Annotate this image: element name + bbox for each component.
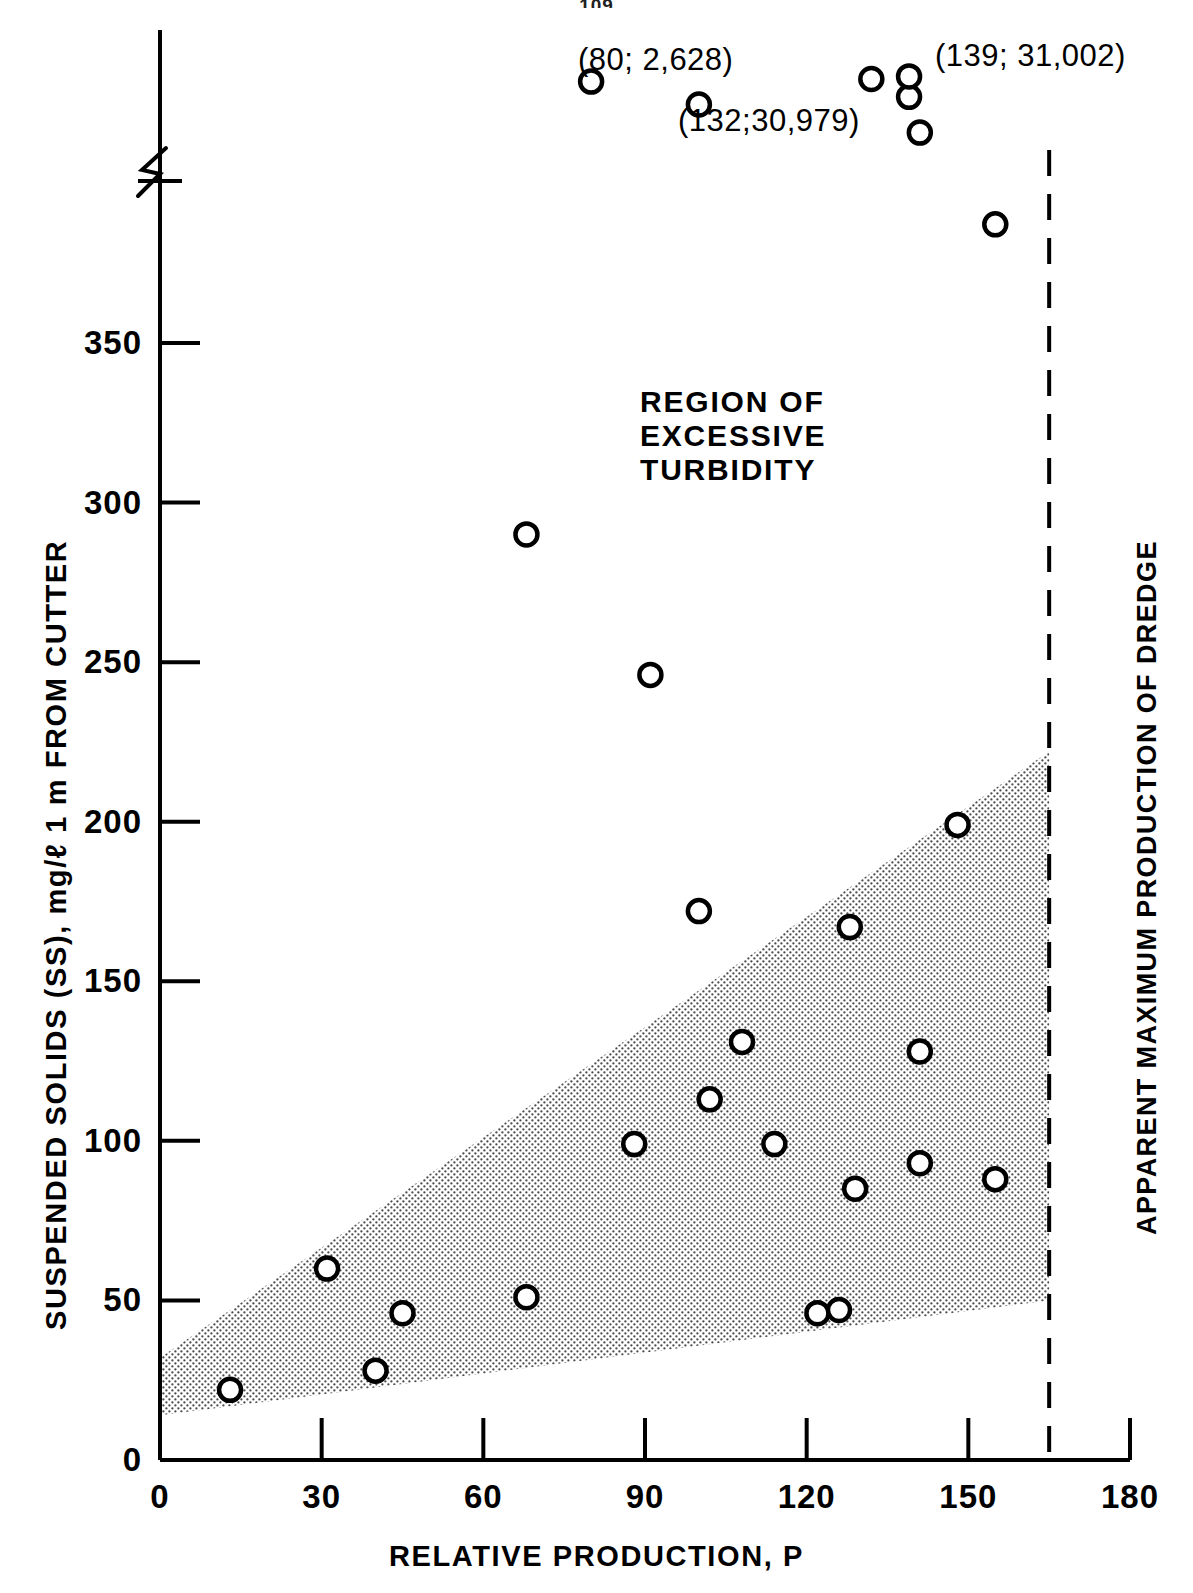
data-point bbox=[984, 213, 1006, 235]
data-point bbox=[898, 65, 920, 87]
data-point bbox=[515, 1286, 537, 1308]
data-point bbox=[731, 1031, 753, 1053]
data-point bbox=[515, 523, 537, 545]
point-annotation-2: (132;30,979) bbox=[678, 103, 860, 139]
x-axis-ticks: 0306090120150180 bbox=[150, 1418, 1159, 1515]
apparent-max-production-label: APPARENT MAXIMUM PRODUCTION OF DREDGE bbox=[1132, 540, 1163, 1235]
x-axis-label: RELATIVE PRODUCTION, P bbox=[0, 1540, 1193, 1573]
x-tick-label: 90 bbox=[626, 1478, 665, 1515]
data-point bbox=[828, 1299, 850, 1321]
x-tick-label: 30 bbox=[302, 1478, 341, 1515]
data-point bbox=[984, 1168, 1006, 1190]
chart-canvas: 050100150200250300350 0306090120150180 bbox=[0, 0, 1193, 1593]
data-point bbox=[844, 1178, 866, 1200]
data-point bbox=[763, 1133, 785, 1155]
scatter-chart: 050100150200250300350 0306090120150180 R… bbox=[0, 0, 1193, 1593]
data-point bbox=[365, 1360, 387, 1382]
y-axis-label: SUSPENDED SOLIDS (SS), mg/ℓ 1 m FROM CUT… bbox=[40, 540, 73, 1330]
y-tick-label: 250 bbox=[84, 643, 142, 680]
x-tick-label: 120 bbox=[778, 1478, 836, 1515]
data-point bbox=[623, 1133, 645, 1155]
data-point bbox=[909, 122, 931, 144]
data-point bbox=[909, 1152, 931, 1174]
data-point bbox=[639, 664, 661, 686]
y-axis-ticks: 050100150200250300350 bbox=[84, 324, 200, 1478]
data-point bbox=[909, 1040, 931, 1062]
y-tick-label: 300 bbox=[84, 484, 142, 521]
y-tick-label: 100 bbox=[84, 1122, 142, 1159]
point-annotation-1: (80; 2,628) bbox=[578, 42, 733, 78]
x-tick-label: 0 bbox=[150, 1478, 169, 1515]
x-tick-label: 60 bbox=[464, 1478, 503, 1515]
x-tick-label: 150 bbox=[939, 1478, 997, 1515]
point-annotation-3: (139; 31,002) bbox=[935, 38, 1126, 74]
y-tick-label: 150 bbox=[84, 962, 142, 999]
data-point bbox=[219, 1379, 241, 1401]
y-tick-label: 50 bbox=[103, 1281, 142, 1318]
region-label-line-1: REGION OF bbox=[640, 385, 826, 419]
data-point bbox=[392, 1302, 414, 1324]
region-label-line-3: TURBIDITY bbox=[640, 453, 826, 487]
shaded-band bbox=[160, 752, 1049, 1416]
data-point bbox=[839, 916, 861, 938]
data-point bbox=[860, 68, 882, 90]
data-point bbox=[699, 1088, 721, 1110]
y-tick-label: 0 bbox=[123, 1441, 142, 1478]
data-point bbox=[806, 1302, 828, 1324]
shaded-band-shape bbox=[160, 752, 1049, 1416]
region-label-line-2: EXCESSIVE bbox=[640, 419, 826, 453]
x-tick-label: 180 bbox=[1101, 1478, 1159, 1515]
region-of-excessive-turbidity-label: REGION OF EXCESSIVE TURBIDITY bbox=[640, 385, 826, 487]
data-point bbox=[947, 814, 969, 836]
y-tick-label: 350 bbox=[84, 324, 142, 361]
data-point bbox=[688, 900, 710, 922]
data-point bbox=[316, 1258, 338, 1280]
y-tick-label: 200 bbox=[84, 803, 142, 840]
